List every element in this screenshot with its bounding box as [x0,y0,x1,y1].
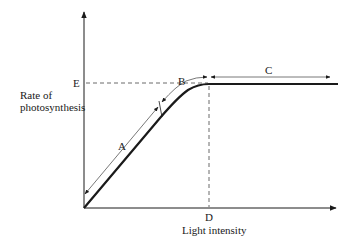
y-axis-label-line2: photosynthesis [20,101,85,113]
e-label: E [73,77,80,89]
region-b-label: B [178,75,185,87]
photosynthesis-light-intensity-diagram [0,0,354,243]
d-label: D [205,211,213,223]
region-a-label: A [118,140,126,152]
region-c-label: C [265,64,272,76]
x-axis-label: Light intensity [182,224,246,236]
y-axis-label-line1: Rate of [20,89,52,101]
transition-tick [159,101,162,117]
